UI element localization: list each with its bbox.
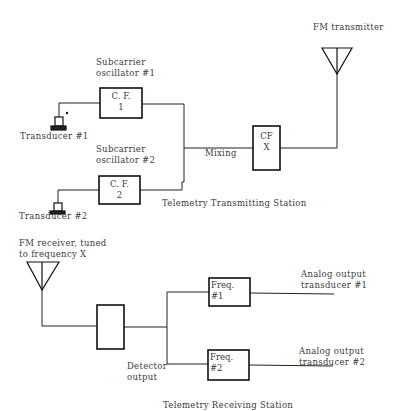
label-line: output — [127, 372, 157, 382]
wire-cf2-mix — [140, 182, 182, 190]
label-line: oscillator #2 — [96, 155, 155, 165]
cf2-box-text: C. F. 2 — [99, 179, 140, 201]
box-line: C. F. — [112, 91, 131, 101]
box-line: C. F. — [110, 179, 129, 189]
transmitter-antenna-icon — [322, 48, 352, 74]
label-line: to frequency X — [19, 249, 86, 259]
detector-output-label: Detector output — [127, 361, 167, 383]
box-line: #2 — [210, 363, 223, 373]
receiving-station-title: Telemetry Receiving Station — [163, 400, 293, 411]
wire-transducer2-cf2 — [58, 190, 99, 203]
label-line: Subcarrier — [96, 144, 146, 154]
wire-branch — [167, 292, 209, 364]
box-line: 1 — [118, 102, 123, 112]
label-line: Analog output — [299, 346, 364, 356]
wire-cfx-antenna — [280, 74, 337, 148]
wire-freq1-output — [250, 293, 334, 294]
detector-box — [97, 305, 124, 349]
wire-cf1-mix — [142, 104, 184, 182]
label-line: FM receiver, tuned — [19, 238, 107, 248]
transducer-1-label: Transducer #1 — [20, 131, 89, 142]
cf1-box-text: C. F. 1 — [100, 91, 142, 113]
analog-output-1-label: Analog output transducer #1 — [301, 269, 367, 291]
fm-transmitter-label: FM transmitter — [313, 22, 384, 33]
mixing-label: Mixing — [205, 148, 237, 159]
subcarrier-2-label: Subcarrier oscillator #2 — [96, 144, 155, 166]
label-line: transducer #2 — [299, 357, 365, 367]
box-line: Freq. — [211, 280, 234, 290]
receiver-antenna-icon — [27, 262, 59, 290]
label-line: Analog output — [301, 269, 366, 279]
label-line: transducer #1 — [301, 280, 367, 290]
box-line: #1 — [211, 291, 224, 301]
transducer-2-label: Transducer #2 — [19, 211, 88, 222]
subcarrier-1-label: Subcarrier oscillator #1 — [96, 57, 155, 79]
fm-receiver-label: FM receiver, tuned to frequency X — [19, 238, 107, 260]
label-line: Detector — [127, 361, 167, 371]
freq1-box-text: Freq. #1 — [211, 280, 234, 302]
box-line: CF — [260, 131, 272, 141]
label-line: oscillator #1 — [96, 68, 155, 78]
freq2-box-text: Freq. #2 — [210, 352, 233, 374]
cfx-box-text: CF X — [253, 131, 280, 153]
label-line: Subcarrier — [96, 57, 146, 67]
wire-transducer1-cf1 — [59, 103, 100, 118]
transmitting-station-title: Telemetry Transmitting Station — [162, 198, 306, 209]
analog-output-2-label: Analog output transducer #2 — [299, 346, 365, 368]
wire-antenna-detector — [42, 290, 97, 326]
box-line: 2 — [117, 190, 122, 200]
box-line: Freq. — [210, 352, 233, 362]
box-line: X — [263, 142, 269, 152]
